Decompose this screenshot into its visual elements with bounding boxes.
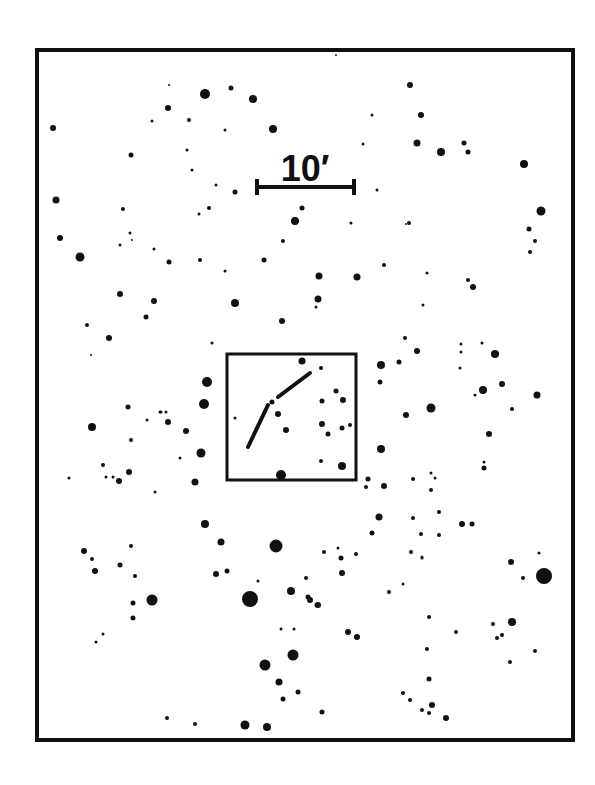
star [293, 628, 296, 631]
star [129, 153, 134, 158]
star [491, 622, 495, 626]
star [211, 342, 214, 345]
star [168, 84, 170, 86]
star [304, 576, 308, 580]
star [405, 223, 407, 225]
star [102, 633, 105, 636]
star [319, 366, 323, 370]
star [281, 239, 285, 243]
star [57, 235, 63, 241]
star [378, 380, 383, 385]
star [269, 125, 277, 133]
star [81, 548, 87, 554]
star [117, 291, 123, 297]
star [202, 377, 212, 387]
star [377, 445, 385, 453]
star [146, 419, 149, 422]
star [262, 258, 267, 263]
star [199, 399, 209, 409]
track-segment [278, 373, 310, 397]
star [193, 722, 197, 726]
star [90, 557, 94, 561]
star [207, 206, 211, 210]
star [280, 628, 283, 631]
star [283, 427, 289, 433]
star [454, 630, 458, 634]
star [401, 691, 405, 695]
star [508, 660, 512, 664]
star [508, 559, 514, 565]
star [234, 417, 237, 420]
star [288, 650, 299, 661]
star [183, 428, 189, 434]
star [191, 169, 194, 172]
star [201, 520, 209, 528]
star [335, 54, 337, 56]
star [279, 318, 285, 324]
star [370, 531, 375, 536]
star [538, 552, 541, 555]
star [151, 120, 154, 123]
star [429, 702, 435, 708]
star [419, 532, 423, 536]
star [118, 563, 123, 568]
star [233, 190, 238, 195]
star [411, 516, 415, 520]
star [319, 421, 325, 427]
star [326, 432, 331, 437]
star [350, 222, 353, 225]
star [427, 677, 432, 682]
star [536, 568, 552, 584]
star [427, 615, 431, 619]
star [224, 270, 227, 273]
star [315, 602, 321, 608]
star [403, 336, 407, 340]
finder-chart: 10′ [0, 0, 595, 785]
star [345, 629, 351, 635]
star [320, 399, 325, 404]
star [257, 580, 260, 583]
star [179, 457, 182, 460]
star [409, 550, 413, 554]
star [371, 114, 374, 117]
star [382, 263, 386, 267]
star [481, 342, 484, 345]
star [437, 148, 445, 156]
star [414, 140, 421, 147]
star [340, 397, 346, 403]
star [362, 143, 365, 146]
star [334, 389, 339, 394]
star [338, 462, 346, 470]
star [377, 361, 385, 369]
star [402, 583, 405, 586]
star [319, 459, 323, 463]
star [537, 207, 546, 216]
star [121, 207, 125, 211]
star [88, 423, 96, 431]
star [420, 708, 424, 712]
star [460, 343, 463, 346]
star [225, 569, 230, 574]
star [414, 348, 420, 354]
star [131, 239, 133, 241]
star [421, 557, 424, 560]
star [366, 477, 371, 482]
star [187, 118, 191, 122]
star [133, 574, 137, 578]
star [160, 411, 163, 414]
star [144, 315, 149, 320]
star [165, 105, 171, 111]
star [407, 221, 411, 225]
star [316, 273, 323, 280]
star [466, 278, 470, 282]
object-track [248, 373, 310, 447]
star [186, 149, 189, 152]
star [224, 129, 227, 132]
star [165, 716, 169, 720]
star [260, 660, 271, 671]
star [348, 423, 352, 427]
star [229, 86, 234, 91]
star [466, 150, 471, 155]
star [418, 112, 424, 118]
scale-bar: 10′ [257, 148, 354, 195]
